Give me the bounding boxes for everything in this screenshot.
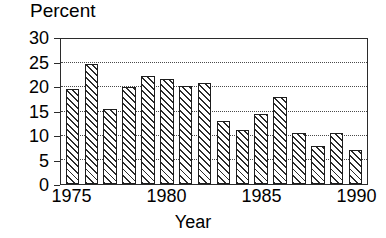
- bar-slot: [82, 39, 101, 184]
- bar-slot: [346, 39, 365, 184]
- x-axis-tick-labels: 1975198019851990: [60, 187, 368, 211]
- bar-slot: [63, 39, 82, 184]
- bar-slot: [327, 39, 346, 184]
- y-axis-tick-label: 20: [29, 78, 49, 96]
- bar: [141, 76, 155, 184]
- bar-series: [61, 39, 367, 184]
- y-axis-title: Percent: [30, 1, 95, 20]
- bar-slot: [157, 39, 176, 184]
- y-axis-tick-labels: 051015202530: [0, 38, 58, 185]
- x-axis-tick-label: 1985: [241, 187, 281, 205]
- bar: [198, 83, 212, 185]
- bar: [292, 133, 306, 184]
- y-axis-tick-label: 0: [39, 176, 49, 194]
- bar-slot: [195, 39, 214, 184]
- y-axis-tick-label: 30: [29, 29, 49, 47]
- bar: [103, 109, 117, 184]
- bar: [122, 87, 136, 184]
- bar-slot: [101, 39, 120, 184]
- y-axis-tick-label: 10: [29, 127, 49, 145]
- bar: [217, 121, 231, 184]
- bar-chart: Percent 051015202530 1975198019851990 Ye…: [0, 0, 386, 238]
- bar-slot: [176, 39, 195, 184]
- bar: [179, 86, 193, 184]
- y-axis-tick-label: 25: [29, 54, 49, 72]
- bar: [311, 146, 325, 184]
- bar-slot: [120, 39, 139, 184]
- bar: [330, 133, 344, 184]
- x-axis-tick-label: 1980: [146, 187, 186, 205]
- bar-slot: [214, 39, 233, 184]
- bar: [160, 79, 174, 184]
- bar: [273, 97, 287, 184]
- plot-area: [60, 38, 368, 185]
- y-axis-tick-label: 5: [39, 152, 49, 170]
- x-axis-tick-label: 1975: [51, 187, 91, 205]
- bar-slot: [139, 39, 158, 184]
- bar-slot: [271, 39, 290, 184]
- bar-slot: [252, 39, 271, 184]
- bar-slot: [308, 39, 327, 184]
- x-axis-tick-label: 1990: [336, 187, 376, 205]
- bar: [254, 114, 268, 184]
- bar-slot: [233, 39, 252, 184]
- bar: [85, 64, 99, 184]
- y-axis-tick-label: 15: [29, 103, 49, 121]
- bar: [236, 130, 250, 184]
- bar: [349, 150, 363, 184]
- bar: [66, 89, 80, 184]
- bar-slot: [290, 39, 309, 184]
- x-axis-title: Year: [0, 213, 386, 231]
